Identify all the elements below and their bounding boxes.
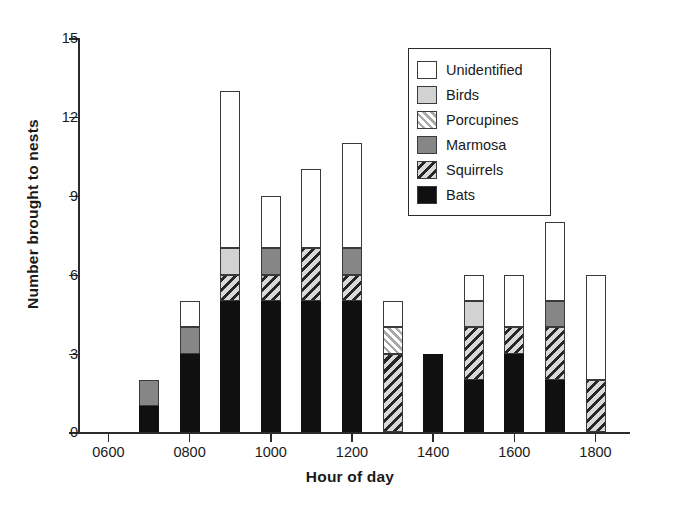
bar-segment-unidentified[interactable] [586,275,606,380]
x-tick-mark [432,434,434,442]
bar-0800[interactable] [180,301,200,432]
legend-item-marmosa[interactable]: Marmosa [417,132,544,157]
bar-segment-porcupines[interactable] [383,327,403,353]
bar-segment-unidentified[interactable] [261,196,281,249]
y-tick-label: 15 [62,30,78,46]
x-tick-mark [189,434,191,442]
bar-1200[interactable] [342,143,362,432]
bar-1100[interactable] [301,169,321,432]
bar-segment-bats[interactable] [464,380,484,433]
legend-item-squirrels[interactable]: Squirrels [417,157,544,182]
bar-segment-marmosa[interactable] [545,301,565,327]
x-tick-mark [270,434,272,442]
bar-segment-squirrels[interactable] [545,327,565,380]
bar-segment-unidentified[interactable] [464,275,484,301]
legend-swatch-icon [417,186,437,204]
bar-segment-squirrels[interactable] [586,380,606,433]
bar-segment-marmosa[interactable] [180,327,200,353]
legend-label: Porcupines [446,112,519,128]
bar-segment-marmosa[interactable] [139,380,159,406]
bar-segment-squirrels[interactable] [383,354,403,433]
chart-figure: Number brought to nests Hour of day 0369… [0,0,673,507]
x-tick-label: 1200 [336,444,368,460]
bar-1800[interactable] [586,275,606,433]
bar-segment-birds[interactable] [464,301,484,327]
bar-segment-squirrels[interactable] [220,275,240,301]
legend-item-unidentified[interactable]: Unidentified [417,57,544,82]
bar-segment-unidentified[interactable] [180,301,200,327]
bar-segment-marmosa[interactable] [261,248,281,274]
bar-segment-bats[interactable] [545,380,565,433]
y-axis-line [78,38,80,434]
bar-0700[interactable] [139,380,159,433]
legend-label: Unidentified [446,62,523,78]
bar-segment-bats[interactable] [504,354,524,433]
y-tick-label: 6 [70,267,78,283]
bar-segment-unidentified[interactable] [342,143,362,248]
bar-segment-bats[interactable] [301,301,321,432]
bar-segment-unidentified[interactable] [383,301,403,327]
x-tick-label: 0800 [173,444,205,460]
bar-segment-unidentified[interactable] [301,169,321,248]
x-tick-label: 1000 [255,444,287,460]
bar-segment-squirrels[interactable] [342,275,362,301]
bar-segment-bats[interactable] [261,301,281,432]
bar-0900[interactable] [220,91,240,433]
bar-segment-bats[interactable] [139,406,159,432]
legend-swatch-icon [417,161,437,179]
legend-item-birds[interactable]: Birds [417,82,544,107]
bar-segment-squirrels[interactable] [261,275,281,301]
x-tick-mark [108,434,110,442]
bar-segment-squirrels[interactable] [464,327,484,380]
bar-1700[interactable] [545,222,565,432]
x-tick-label: 1800 [579,444,611,460]
bar-1400[interactable] [423,354,443,433]
x-tick-label: 1600 [498,444,530,460]
legend-label: Bats [446,187,475,203]
bar-segment-squirrels[interactable] [301,248,321,301]
legend-label: Marmosa [446,137,506,153]
y-tick-label: 0 [70,424,78,440]
x-tick-mark [351,434,353,442]
legend-swatch-icon [417,111,437,129]
x-tick-label: 1400 [417,444,449,460]
y-axis-title: Number brought to nests [24,44,42,384]
x-axis-title: Hour of day [60,468,640,486]
bar-segment-bats[interactable] [220,301,240,432]
legend-item-bats[interactable]: Bats [417,182,544,207]
y-tick-label: 3 [70,346,78,362]
x-tick-mark [514,434,516,442]
bar-segment-birds[interactable] [220,248,240,274]
legend-label: Squirrels [446,162,503,178]
bar-1500[interactable] [464,275,484,433]
y-tick-label: 12 [62,109,78,125]
bar-segment-bats[interactable] [180,354,200,433]
x-tick-mark [595,434,597,442]
legend-swatch-icon [417,61,437,79]
bar-segment-unidentified[interactable] [504,275,524,328]
legend-swatch-icon [417,136,437,154]
x-tick-label: 0600 [92,444,124,460]
bar-segment-unidentified[interactable] [220,91,240,249]
y-tick-label: 9 [70,188,78,204]
legend-item-porcupines[interactable]: Porcupines [417,107,544,132]
chart-legend: UnidentifiedBirdsPorcupinesMarmosaSquirr… [408,48,551,216]
bar-1000[interactable] [261,196,281,433]
bar-segment-squirrels[interactable] [504,327,524,353]
bar-segment-bats[interactable] [342,301,362,432]
legend-label: Birds [446,87,479,103]
bar-segment-marmosa[interactable] [342,248,362,274]
x-axis-line [78,432,630,434]
bar-segment-unidentified[interactable] [545,222,565,301]
bar-1300[interactable] [383,301,403,432]
bar-1600[interactable] [504,275,524,433]
legend-swatch-icon [417,86,437,104]
bar-segment-bats[interactable] [423,354,443,433]
